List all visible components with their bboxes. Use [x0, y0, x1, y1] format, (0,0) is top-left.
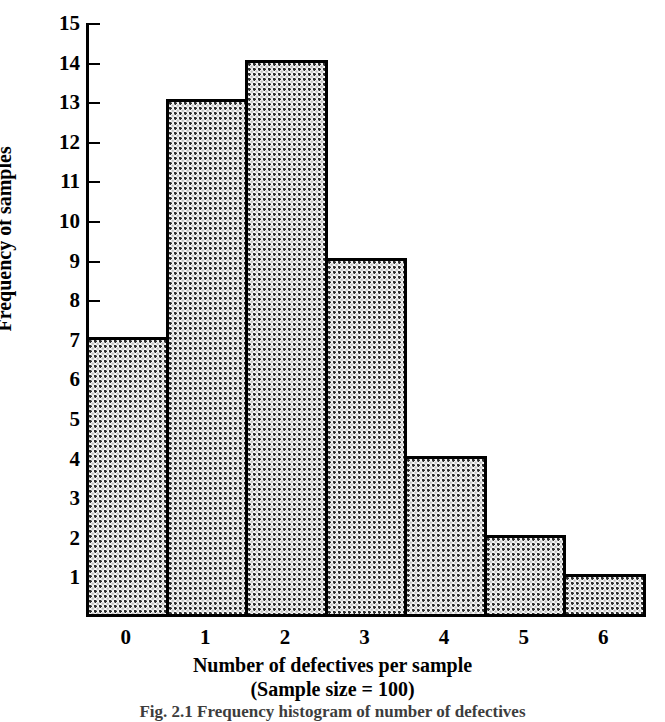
bar-0 [86, 337, 169, 617]
y-tick-14: 14 [89, 63, 100, 65]
bar-2 [245, 60, 328, 617]
y-tick-8: 8 [89, 300, 100, 302]
x-tick-label-2: 2 [280, 627, 291, 648]
y-tick-label-7: 7 [70, 329, 81, 350]
y-tick-15: 15 [89, 23, 100, 25]
y-tick-label-10: 10 [59, 211, 80, 232]
x-tick-label-6: 6 [598, 627, 609, 648]
y-tick-label-3: 3 [70, 488, 81, 509]
bar-4 [404, 456, 487, 617]
bar-5 [484, 535, 567, 617]
plot-area: 123456789101112131415 0123456 [86, 23, 643, 617]
y-tick-label-9: 9 [70, 250, 81, 271]
y-tick-label-15: 15 [59, 13, 80, 34]
figure-caption: Fig. 2.1 Frequency histogram of number o… [0, 703, 665, 722]
x-axis-title-line2: (Sample size = 100) [0, 677, 665, 701]
y-tick-label-8: 8 [70, 290, 81, 311]
y-tick-11: 11 [89, 181, 100, 183]
y-tick-label-4: 4 [70, 448, 81, 469]
x-tick-label-5: 5 [518, 627, 529, 648]
y-tick-label-13: 13 [59, 92, 80, 113]
y-tick-label-6: 6 [70, 369, 81, 390]
x-tick-label-4: 4 [439, 627, 450, 648]
y-tick-label-12: 12 [59, 131, 80, 152]
x-tick-label-0: 0 [121, 627, 132, 648]
y-tick-label-11: 11 [60, 171, 80, 192]
y-tick-13: 13 [89, 102, 100, 104]
x-axis-title: Number of defectives per sample (Sample … [0, 653, 665, 702]
y-tick-label-14: 14 [59, 52, 80, 73]
bar-3 [325, 258, 408, 617]
y-axis-title: Frequency of samples [0, 146, 16, 331]
x-tick-label-3: 3 [359, 627, 370, 648]
x-axis-title-line1: Number of defectives per sample [193, 654, 472, 676]
y-tick-label-5: 5 [70, 409, 81, 430]
bar-6 [563, 574, 646, 617]
x-tick-label-1: 1 [200, 627, 211, 648]
y-tick-label-1: 1 [70, 567, 81, 588]
y-tick-12: 12 [89, 142, 100, 144]
bar-1 [166, 99, 249, 617]
y-tick-label-2: 2 [70, 527, 81, 548]
y-tick-10: 10 [89, 221, 100, 223]
y-tick-9: 9 [89, 261, 100, 263]
